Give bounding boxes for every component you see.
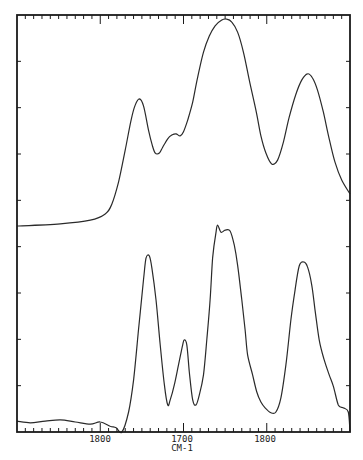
- lower-spectrum-line: [17, 225, 350, 432]
- x-tick-label-3: 1800: [254, 434, 276, 444]
- ir-spectrum-chart: 1800 1700 1800 CM-1: [0, 0, 363, 460]
- x-tick-label-1: 1800: [89, 434, 111, 444]
- x-axis-title: CM-1: [171, 443, 193, 453]
- upper-spectrum-line: [17, 19, 350, 226]
